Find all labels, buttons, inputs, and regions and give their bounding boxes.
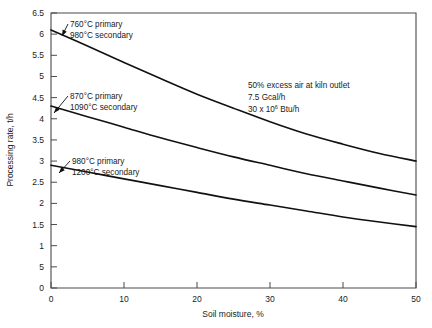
note-line-2: 7.5 Gcal/h — [248, 93, 286, 102]
chart-container: 0511.522.533.544.555.566.5 01020304050 7… — [0, 0, 432, 328]
x-tick-label: 50 — [411, 294, 421, 304]
y-tick-label: 6 — [39, 29, 44, 39]
y-tick-label: 4 — [39, 114, 44, 124]
curve-annotations: 760°C primary980°C secondary870°C primar… — [54, 20, 140, 177]
data-curve-2 — [51, 106, 416, 195]
y-tick-label: 6.5 — [32, 8, 44, 18]
data-curves — [51, 30, 416, 227]
y-tick-label: 5.5 — [32, 50, 44, 60]
note-line-1: 50% excess air at kiln outlet — [248, 81, 350, 90]
y-tick-label: 5 — [39, 262, 44, 272]
note-line-3-base: 30 x 10 — [248, 105, 275, 114]
note-line-3: 30 x 106 Btu/h — [248, 104, 300, 115]
annotation-line-1: 980°C primary — [72, 157, 125, 166]
annotation-line-1: 870°C primary — [70, 92, 123, 101]
x-tick-label: 30 — [265, 294, 275, 304]
y-tick-label: 0 — [39, 283, 44, 293]
y-tick-label: 1 — [39, 241, 44, 251]
curve-label-top: 760°C primary980°C secondary — [62, 20, 134, 40]
y-tick-label: 3 — [39, 156, 44, 166]
y-tick-label: 5 — [39, 71, 44, 81]
x-axis-ticks: 01020304050 — [49, 282, 421, 304]
conditions-note-block: 50% excess air at kiln outlet7.5 Gcal/h3… — [248, 81, 350, 114]
annotation-line-2: 1090°C secondary — [70, 103, 138, 112]
y-tick-label: 4.5 — [32, 93, 44, 103]
processing-rate-vs-soil-moisture-chart: 0511.522.533.544.555.566.5 01020304050 7… — [0, 0, 432, 328]
y-tick-label: 3.5 — [32, 135, 44, 145]
annotation-line-1: 760°C primary — [70, 20, 123, 29]
annotation-line-2: 980°C secondary — [70, 31, 134, 40]
y-tick-label: 2.5 — [32, 177, 44, 187]
annotation-line-2: 1200°C secondary — [72, 168, 140, 177]
x-tick-label: 40 — [338, 294, 348, 304]
x-tick-label: 10 — [119, 294, 129, 304]
y-axis-title: Processing rate, t/h — [5, 113, 15, 187]
x-tick-label: 20 — [192, 294, 202, 304]
y-tick-label: 2 — [39, 198, 44, 208]
curve-label-bottom: 980°C primary1200°C secondary — [59, 157, 140, 177]
x-tick-label: 0 — [49, 294, 54, 304]
note-line-3-tail: Btu/h — [278, 105, 300, 114]
y-axis-ticks: 0511.522.533.544.555.566.5 — [32, 8, 57, 293]
x-axis-title: Soil moisture, % — [202, 309, 264, 319]
y-tick-label: 1.5 — [32, 220, 44, 230]
